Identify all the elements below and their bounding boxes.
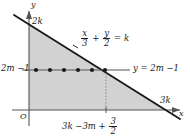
- horizontal-line-tick-label: 2m −1: [1, 64, 30, 73]
- figure-canvas: y x O 2k 3k 2m −1 y = 2m −1 x 3 + y 2 = …: [0, 0, 190, 140]
- equals-k: = k: [113, 34, 130, 43]
- boundary-line-equation-label: x 3 + y 2 = k: [81, 29, 130, 48]
- fraction-numerator: x: [81, 29, 88, 38]
- y-axis-label: y: [31, 1, 36, 9]
- equation-leader-line: [73, 45, 78, 48]
- fraction-3-over-2: 3 2: [109, 117, 116, 136]
- fraction-x-over-3: x 3: [81, 29, 88, 48]
- lattice-point: [48, 68, 52, 72]
- x-mark-lead-text: 3k −3m +: [61, 122, 107, 131]
- x-mark-label: 3k −3m + 3 2: [61, 117, 117, 136]
- lattice-point: [90, 68, 94, 72]
- lattice-point: [103, 68, 107, 72]
- fraction-numerator: y: [103, 29, 110, 38]
- lattice-point: [62, 68, 66, 72]
- fraction-denominator: 2: [103, 38, 110, 48]
- x-axis-label: x: [179, 110, 184, 118]
- fraction-denominator: 2: [109, 126, 116, 136]
- horizontal-line-equation-label: y = 2m −1: [133, 64, 179, 73]
- origin-label: O: [20, 113, 27, 121]
- lattice-point: [34, 68, 38, 72]
- lattice-point: [76, 68, 80, 72]
- plus-sign: +: [91, 34, 100, 43]
- y-intercept-tick-label: 2k: [32, 17, 43, 26]
- x-intercept-tick-label: 3k: [160, 96, 171, 105]
- fraction-y-over-2: y 2: [103, 29, 110, 48]
- fraction-denominator: 3: [81, 38, 88, 48]
- fraction-numerator: 3: [109, 117, 116, 126]
